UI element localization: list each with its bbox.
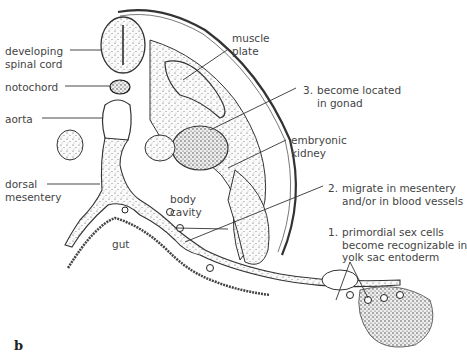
aorta	[103, 100, 132, 142]
embryonic-kidney	[172, 126, 228, 170]
step-2-label: 2.migrate in mesentery and/or in blood v…	[328, 182, 463, 207]
step-line: and/or in blood vessels	[328, 195, 463, 208]
label-line: plate	[232, 45, 270, 58]
label-body-cavity: body cavity	[170, 193, 202, 218]
label-line: developing	[5, 45, 63, 58]
step-line: primordial sex cells	[342, 226, 444, 238]
step-line: yolk sac entoderm	[328, 251, 467, 264]
yolk-sac	[359, 287, 433, 347]
notochord	[110, 80, 130, 94]
label-line: spinal cord	[5, 58, 63, 71]
label-dorsal-mesentery: dorsal mesentery	[5, 178, 61, 203]
step-line: become located	[317, 84, 401, 96]
label-muscle-plate: muscle plate	[232, 32, 270, 57]
step-1-label: 1.primordial sex cells become recognizab…	[328, 226, 467, 264]
label-gut: gut	[112, 238, 129, 251]
step-line: become recognizable in	[328, 239, 467, 252]
step-line: in gonad	[303, 97, 401, 110]
step-number: 1.	[328, 226, 342, 239]
label-notochord: notochord	[5, 81, 58, 94]
label-line: body	[170, 193, 202, 206]
label-line: kidney	[291, 147, 347, 160]
label-aorta: aorta	[5, 113, 33, 126]
label-line: dorsal	[5, 178, 61, 191]
step-line: migrate in mesentery	[342, 182, 456, 194]
step-number: 2.	[328, 182, 342, 195]
label-line: embryonic	[291, 134, 347, 147]
step-3-label: 3.become located in gonad	[303, 84, 401, 109]
label-line: muscle	[232, 32, 270, 45]
label-line: cavity	[170, 206, 202, 219]
label-developing-spinal-cord: developing spinal cord	[5, 45, 63, 70]
panel-label: b	[14, 338, 23, 353]
step-number: 3.	[303, 84, 317, 97]
label-embryonic-kidney: embryonic kidney	[291, 134, 347, 159]
label-line: mesentery	[5, 191, 61, 204]
